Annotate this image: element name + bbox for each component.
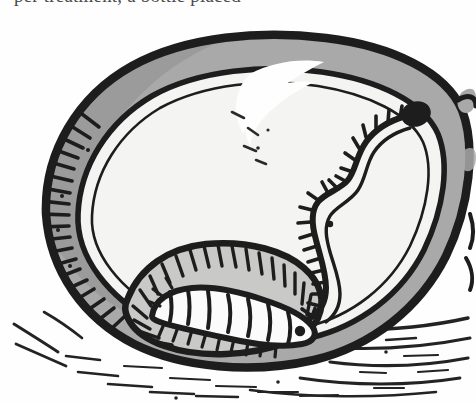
scanned-page: per treatment, a bottle placed xyxy=(0,0,476,403)
right-edge-marks xyxy=(466,214,473,290)
illustration-figure xyxy=(0,0,476,403)
illustration-svg xyxy=(0,0,476,403)
